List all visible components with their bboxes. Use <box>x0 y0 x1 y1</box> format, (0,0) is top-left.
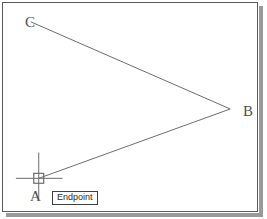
segment-cb <box>31 22 230 109</box>
vertex-label-c: C <box>25 15 35 30</box>
cad-screenshot: C B A Endpoint <box>0 0 267 219</box>
drawing-geometry <box>3 3 257 211</box>
vertex-label-a: A <box>30 189 41 204</box>
endpoint-snap-tooltip: Endpoint <box>52 191 98 205</box>
vertex-label-b: B <box>243 104 253 119</box>
segment-ba <box>39 109 230 178</box>
window-shadow-bottom <box>6 213 263 217</box>
window-shadow-right <box>259 6 263 217</box>
drawing-canvas[interactable]: C B A Endpoint <box>2 2 258 212</box>
polyline-geometry <box>31 22 230 178</box>
